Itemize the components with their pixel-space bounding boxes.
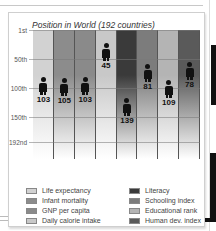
gridline-1st: [29, 30, 200, 31]
person-icon: [41, 77, 46, 82]
scrollbar-thumb[interactable]: [211, 45, 216, 105]
legend-item: Infant mortality: [26, 197, 88, 204]
chart-title: Position in World (192 countries): [32, 20, 155, 30]
ytick-label: 100th: [11, 85, 27, 92]
legend-swatch: [26, 218, 37, 224]
rank-marker: 139: [120, 98, 134, 125]
legend-swatch: [129, 208, 140, 214]
rank-value: 109: [162, 98, 175, 107]
rank-value: 81: [143, 82, 152, 91]
rank-marker: 78: [183, 62, 197, 89]
rank-marker: 103: [78, 77, 92, 104]
person-icon: [83, 77, 88, 82]
rank-value: 45: [102, 61, 111, 70]
legend-swatch: [26, 188, 37, 194]
legend-item: Literacy: [129, 187, 170, 194]
legend-swatch: [26, 198, 37, 204]
rank-value: 78: [185, 80, 194, 89]
rank-marker: 81: [141, 64, 155, 91]
chart-panel: Position in World (192 countries) 1st 50…: [8, 12, 205, 227]
rank-marker: 45: [99, 43, 113, 70]
legend-item: GNP per capita: [26, 207, 90, 214]
rank-value: 139: [120, 116, 133, 125]
rank-marker: 105: [57, 78, 71, 105]
bar-schooling-index: [137, 30, 158, 159]
bar-literacy: [117, 30, 138, 159]
person-icon: [187, 62, 192, 67]
rank-marker: 103: [36, 77, 50, 104]
ytick-label: 1st: [18, 27, 27, 34]
legend-swatch: [26, 208, 37, 214]
top-divider: [0, 0, 203, 6]
person-icon: [62, 78, 67, 83]
person-icon: [104, 43, 109, 48]
legend-swatch: [129, 198, 140, 204]
ytick-label: 150th: [11, 114, 27, 121]
page-edge-bracket: [210, 153, 216, 222]
legend-swatch: [129, 218, 140, 224]
person-icon: [124, 98, 129, 103]
bar-human-dev-index: [179, 30, 200, 159]
plot-area: 1st 50th 100th 150th 192nd 103 105 103 4…: [33, 30, 200, 159]
rank-value: 105: [58, 96, 71, 105]
rank-marker: 109: [162, 80, 176, 107]
ytick-label: 50th: [14, 55, 27, 62]
gridline-150th: [29, 117, 200, 118]
legend-item: Life expectancy: [26, 187, 91, 194]
legend-item: Human dev. index: [129, 217, 201, 224]
rank-value: 103: [79, 95, 92, 104]
legend-item: Educational rank: [129, 207, 197, 214]
person-icon: [145, 64, 150, 69]
legend-item: Schooling index: [129, 197, 194, 204]
gridline-50th: [29, 59, 200, 60]
rank-value: 103: [37, 95, 50, 104]
person-icon: [166, 80, 171, 85]
ytick-label: 192nd: [9, 139, 27, 146]
legend-item: Daily calorie intake: [26, 217, 101, 224]
gridline-192nd: [29, 142, 200, 143]
legend-swatch: [129, 188, 140, 194]
